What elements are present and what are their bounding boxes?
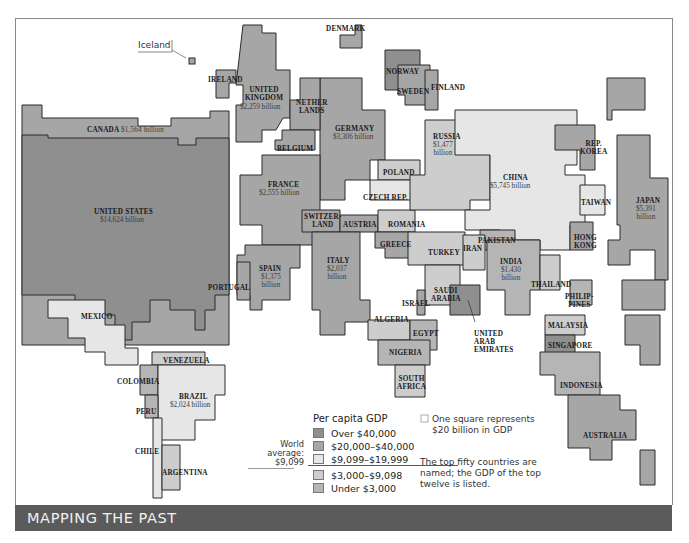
label-italy: ITALY	[327, 257, 350, 265]
region-portugal	[237, 262, 250, 300]
label-iceland: Iceland	[138, 40, 171, 50]
gdp-uk: $2,259 billion	[240, 103, 280, 111]
region-united-kingdom	[236, 25, 290, 142]
world-average-underline	[248, 468, 294, 469]
banner-title: MAPPING THE PAST	[27, 510, 177, 526]
label-canada: CANADA $1,564 billion	[87, 126, 164, 134]
label-poland: POLAND	[383, 169, 415, 177]
label-egypt: EGYPT	[413, 330, 439, 338]
label-mexico: MEXICO	[81, 313, 113, 321]
region-ireland	[216, 70, 236, 98]
label-nigeria: NIGERIA	[389, 349, 422, 357]
swatch-over-40000	[313, 428, 324, 438]
gdp-france: $2,555 billion	[259, 189, 299, 197]
region-italy	[312, 232, 370, 335]
region-japan-south	[622, 280, 665, 310]
label-czech-rep: CZECH REP.	[363, 194, 408, 202]
label-finland: FINLAND	[431, 84, 465, 92]
label-romania: ROMANIA	[388, 221, 425, 229]
swatch-under-3000	[313, 483, 324, 493]
label-france: FRANCE	[268, 181, 299, 189]
label-singapore: SINGAPORE	[548, 342, 593, 350]
label-netherlands: NETHERLANDS	[296, 99, 328, 115]
label-russia: RUSSIA	[433, 133, 461, 141]
legend-item-3000-9098: $3,000–$9,098	[313, 469, 402, 481]
label-spain: SPAIN	[259, 265, 281, 273]
label-taiwan: TAIWAN	[581, 199, 611, 207]
label-korea: REP.KOREA	[580, 140, 607, 156]
label-norway: NORWAY	[386, 68, 419, 76]
label-china: CHINA	[503, 174, 528, 182]
label-indonesia: INDONESIA	[560, 382, 603, 390]
label-colombia: COLOMBIA	[117, 378, 159, 386]
region-japan-islands	[625, 315, 660, 365]
label-thailand: THAILAND	[531, 281, 571, 289]
label-portugal: PORTUGAL	[208, 284, 250, 292]
region-australia	[568, 395, 636, 460]
label-hong-kong: HONGKONG	[574, 234, 597, 250]
section-banner: MAPPING THE PAST	[15, 505, 672, 531]
region-new-zealand	[640, 450, 655, 485]
legend-title: Per capita GDP	[313, 413, 388, 424]
swatch-9099-19999	[313, 454, 324, 464]
label-iran: IRAN	[463, 245, 482, 253]
label-switzerland: SWITZER-LAND	[304, 213, 342, 229]
label-australia: AUSTRALIA	[583, 432, 627, 440]
legend-item-20000-40000: $20,000–$40,000	[313, 440, 414, 452]
region-japan	[607, 78, 645, 120]
label-ireland: IRELAND	[208, 76, 243, 84]
label-pakistan: PAKISTAN	[478, 237, 516, 245]
gdp-germany: $3,306 billion	[333, 133, 373, 141]
gdp-spain: $1,375billion	[261, 273, 281, 289]
label-saudi-arabia: SAUDIARABIA	[431, 287, 461, 303]
gdp-india: $1,430billion	[501, 266, 521, 282]
label-germany: GERMANY	[335, 125, 374, 133]
swatch-20000-40000	[313, 441, 324, 451]
legend-item-over-40000: Over $40,000	[313, 427, 396, 439]
label-peru: PERU	[136, 408, 156, 416]
gdp-united-states: $14,624 billion	[100, 216, 144, 224]
names-note: The top fifty countries arenamed; the GD…	[420, 457, 541, 490]
one-square-icon	[421, 415, 428, 422]
label-malaysia: MALAYSIA	[548, 322, 588, 330]
label-argentina: ARGENTINA	[162, 469, 208, 477]
label-japan: JAPAN	[636, 197, 660, 205]
label-sweden: SWEDEN	[397, 88, 429, 96]
gdp-russia: $1,477billion	[433, 141, 453, 157]
gdp-italy: $2,037billion	[327, 265, 347, 281]
legend-item-under-3000: Under $3,000	[313, 482, 396, 494]
label-uk: UNITEDKINGDOM	[245, 86, 283, 102]
gdp-china: $5,745 billion	[490, 182, 530, 190]
label-philippines: PHILIP-PINES	[565, 293, 594, 309]
label-south-africa: SOUTHAFRICA	[397, 375, 426, 391]
square-note: One square represents$20 billion in GDP	[432, 414, 535, 436]
region-argentina	[162, 445, 180, 490]
label-chile: CHILE	[135, 448, 159, 456]
label-uae: UNITEDARABEMIRATES	[474, 330, 513, 354]
label-belgium: BELGIUM	[277, 145, 313, 153]
label-algeria: ALGERIA	[374, 316, 409, 324]
label-greece: GREECE	[380, 241, 412, 249]
label-venezuela: VENEZUELA	[163, 357, 210, 365]
label-israel: ISRAEL	[402, 300, 430, 308]
label-austria: AUSTRIA	[343, 221, 377, 229]
label-united-states: UNITED STATES	[94, 208, 153, 216]
gdp-japan: $5,391billion	[636, 205, 656, 221]
gdp-brazil: $2,024 billion	[170, 401, 210, 409]
region-iceland	[189, 58, 195, 64]
swatch-3000-9098	[313, 470, 324, 480]
label-turkey: TURKEY	[428, 249, 460, 257]
world-average-label: Worldaverage:$9,099	[252, 440, 304, 467]
label-brazil: BRAZIL	[179, 393, 208, 401]
region-chile	[153, 418, 162, 498]
label-india: INDIA	[500, 258, 522, 266]
label-denmark: DENMARK	[326, 25, 365, 33]
legend-item-9099-19999: $9,099–$19,999	[313, 453, 408, 465]
